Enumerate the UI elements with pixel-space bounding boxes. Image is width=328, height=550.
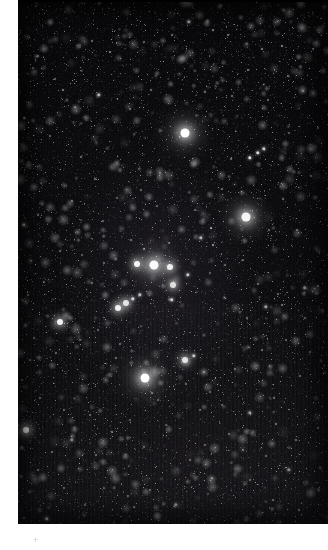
registration-mark-glyph: + (33, 536, 38, 545)
plate-top-edge (18, 0, 328, 2)
registration-mark: + (33, 536, 38, 545)
scan-line-texture-lower (18, 304, 328, 524)
page-root: + (0, 0, 328, 550)
star-field-photograph (18, 0, 328, 524)
